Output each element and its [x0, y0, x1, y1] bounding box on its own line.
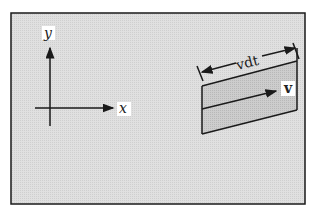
diagram-canvas: y x v vdt [0, 0, 316, 217]
velocity-label: v [283, 80, 293, 96]
y-axis-label: y [43, 25, 53, 41]
x-axis-label: x [119, 100, 127, 116]
